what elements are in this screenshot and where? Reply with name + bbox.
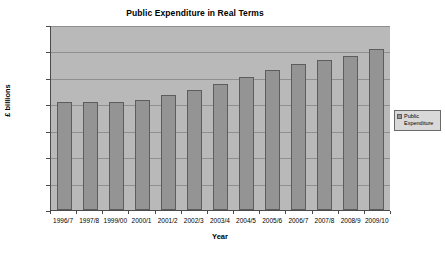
bar[interactable] [187,90,202,211]
bar[interactable] [109,102,124,210]
x-tick-label: 2002/3 [181,217,207,229]
legend-label: Public Expenditure [404,113,438,127]
x-tick-mark [233,211,234,214]
x-tick-mark [364,211,365,214]
x-axis-ticks [50,211,390,215]
x-tick-label: 2004/5 [233,217,259,229]
bar[interactable] [83,102,98,210]
x-axis-labels: 1996/71997/81999/002000/12001/22002/3200… [50,217,390,229]
x-tick-mark [128,211,129,214]
bar[interactable] [291,64,306,210]
x-tick-label: 2000/1 [128,217,154,229]
x-tick-mark [338,211,339,214]
x-tick-label: 2001/2 [155,217,181,229]
x-tick-mark [312,211,313,214]
x-tick-mark [207,211,208,214]
x-tick-label: 2008/9 [338,217,364,229]
x-tick-label: 2003/4 [207,217,233,229]
x-tick-label: 2006/7 [285,217,311,229]
legend-swatch-icon [397,114,402,119]
bar[interactable] [239,77,254,210]
legend: Public Expenditure [394,110,441,131]
x-tick-mark [390,211,391,214]
x-tick-mark [181,211,182,214]
x-tick-label: 2007/8 [311,217,337,229]
bar[interactable] [265,70,280,210]
x-tick-label: 1996/7 [50,217,76,229]
x-tick-label: 1999/00 [102,217,128,229]
bar[interactable] [135,100,150,210]
x-tick-mark [155,211,156,214]
x-tick-mark [285,211,286,214]
x-axis-title: Year [50,232,390,241]
x-tick-mark [102,211,103,214]
plot-area [50,26,390,211]
x-tick-label: 2009/10 [364,217,390,229]
bar[interactable] [161,95,176,210]
y-axis: 0100200300400500600700 [0,0,50,256]
bar-series [51,26,390,210]
chart-title: Public Expenditure in Real Terms [0,8,390,18]
bar[interactable] [343,56,358,210]
bar[interactable] [57,102,72,210]
bar[interactable] [317,60,332,210]
x-tick-mark [259,211,260,214]
chart-container: Public Expenditure in Real Terms £ billi… [0,0,445,256]
x-tick-label: 1997/8 [76,217,102,229]
x-tick-label: 2005/6 [259,217,285,229]
bar[interactable] [213,84,228,210]
bar[interactable] [369,49,384,210]
x-tick-mark [76,211,77,214]
x-tick-mark [50,211,51,214]
